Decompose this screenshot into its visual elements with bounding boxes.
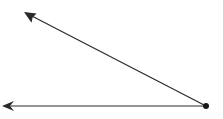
upper-ray [26,13,206,106]
angle-diagram [0,0,223,119]
vertex-point [203,103,209,109]
